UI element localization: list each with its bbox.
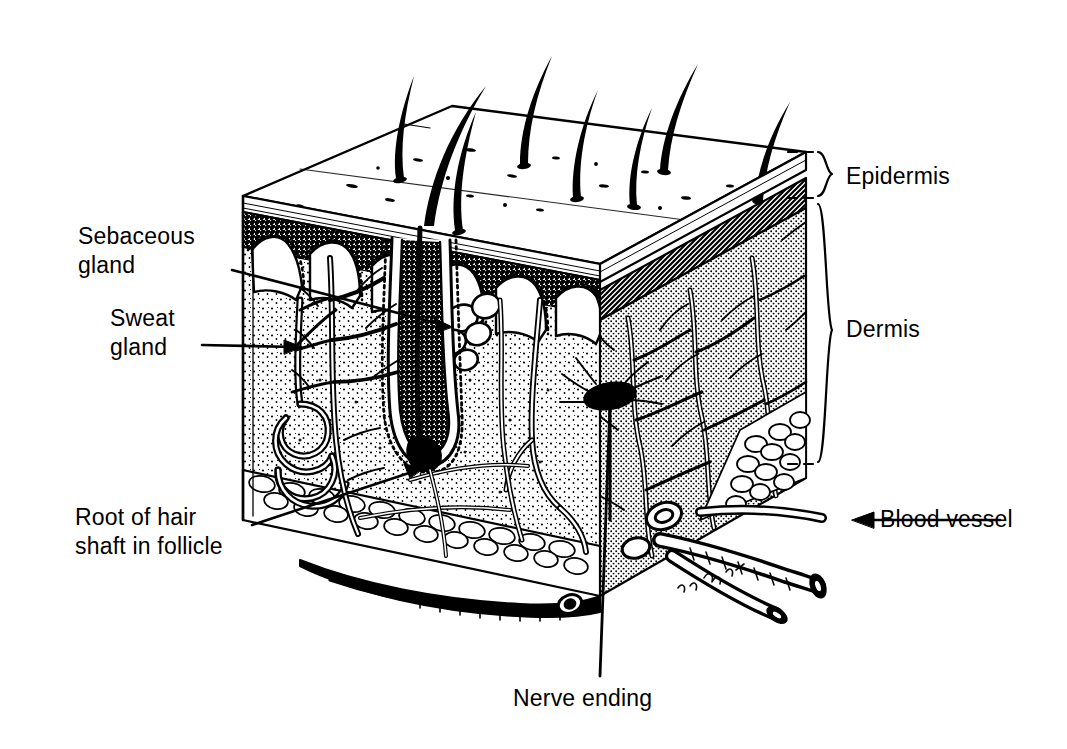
label-sweat-gland-line2: gland [110, 333, 167, 362]
skin-cross-section-illustration [0, 0, 1067, 749]
label-root-of-hair-line1: Root of hair [75, 503, 196, 532]
label-epidermis: Epidermis [846, 162, 950, 191]
skin-diagram-figure: Epidermis Dermis Sebaceous gland Sweat g… [0, 0, 1067, 749]
label-sweat-gland-line1: Sweat [110, 304, 175, 333]
epidermis-brace [818, 152, 832, 196]
label-root-of-hair-line2: shaft in follicle [75, 532, 223, 561]
label-nerve-ending: Nerve ending [513, 684, 652, 713]
label-dermis: Dermis [846, 315, 920, 344]
label-sebaceous-gland-line2: gland [78, 251, 135, 280]
dermis-brace [818, 204, 832, 462]
label-sebaceous-gland-line1: Sebaceous [78, 222, 195, 251]
label-blood-vessel: Blood vessel [880, 505, 1013, 534]
